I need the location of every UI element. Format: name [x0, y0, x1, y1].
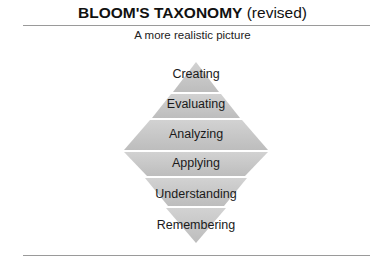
level-creating-label: Creating — [116, 67, 276, 81]
level-applying-label: Applying — [116, 156, 276, 170]
bottom-divider — [23, 255, 370, 256]
level-remembering-label: Remembering — [116, 218, 276, 232]
level-understanding-label: Understanding — [116, 187, 276, 201]
level-analyzing-label: Analyzing — [116, 127, 276, 141]
level-evaluating-label: Evaluating — [116, 97, 276, 111]
